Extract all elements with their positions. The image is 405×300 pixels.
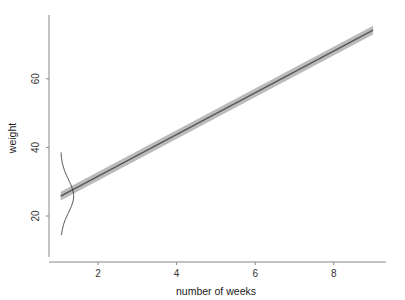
y-ticks: 204060 [30,73,49,222]
y-tick-label: 20 [30,210,41,222]
x-axis-label: number of weeks [176,285,256,297]
y-axis-label: weight [6,123,18,154]
x-tick-label: 4 [174,268,180,279]
chart: 2468 204060 number of weeks weight [0,0,405,300]
regression-line [61,30,373,196]
y-tick-label: 60 [30,73,41,85]
regression-line-layer [61,30,373,196]
y-tick-label: 40 [30,141,41,153]
x-tick-label: 8 [331,268,337,279]
x-tick-label: 6 [252,268,258,279]
x-tick-label: 2 [95,268,101,279]
x-ticks: 2468 [95,262,337,279]
